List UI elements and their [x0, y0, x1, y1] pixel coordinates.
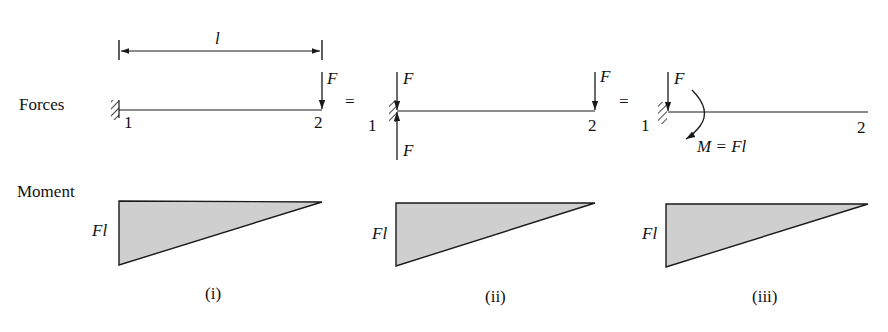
- node-label-1: 1: [124, 113, 133, 132]
- force-label: F: [402, 141, 414, 160]
- fixed-support-icon: [111, 100, 119, 120]
- node-label-2: 2: [314, 113, 323, 132]
- equals-sign: =: [619, 92, 629, 111]
- moment-diagram-ii: Fl (ii): [371, 203, 595, 306]
- moment-diagram-iii: Fl (iii): [641, 204, 868, 306]
- caption-iii: (iii): [752, 287, 778, 306]
- force-label: F: [599, 67, 611, 86]
- fixed-support-icon: [389, 100, 397, 122]
- node-label-2: 2: [857, 118, 866, 137]
- force-label: F: [402, 69, 414, 88]
- panel-ii-forces: F F F 1 2: [368, 67, 611, 160]
- panel-i-forces: l F 1 2: [111, 29, 338, 132]
- node-label-1: 1: [641, 116, 650, 135]
- moment-label: Fl: [641, 224, 657, 243]
- caption-ii: (ii): [485, 287, 506, 306]
- force-label: F: [673, 69, 685, 88]
- moment-diagram-i: Fl (i): [91, 201, 322, 303]
- node-label-1: 1: [368, 116, 377, 135]
- moment-label: Fl: [371, 224, 387, 243]
- node-label-2: 2: [588, 116, 597, 135]
- row-label-moment: Moment: [17, 182, 75, 201]
- row-label-forces: Forces: [19, 95, 64, 114]
- moment-arrow-icon: [686, 90, 705, 139]
- equals-sign: =: [345, 92, 355, 111]
- beam-diagram: Forces Moment l F 1 2 = F F F 1 2 =: [0, 0, 888, 332]
- fixed-support-icon: [658, 102, 667, 124]
- couple-label: M = Fl: [696, 137, 747, 156]
- dimension-label: l: [215, 29, 220, 48]
- force-label: F: [326, 69, 338, 88]
- moment-label: Fl: [91, 221, 107, 240]
- caption-i: (i): [205, 284, 221, 303]
- panel-iii-forces: F M = Fl 1 2: [641, 69, 868, 156]
